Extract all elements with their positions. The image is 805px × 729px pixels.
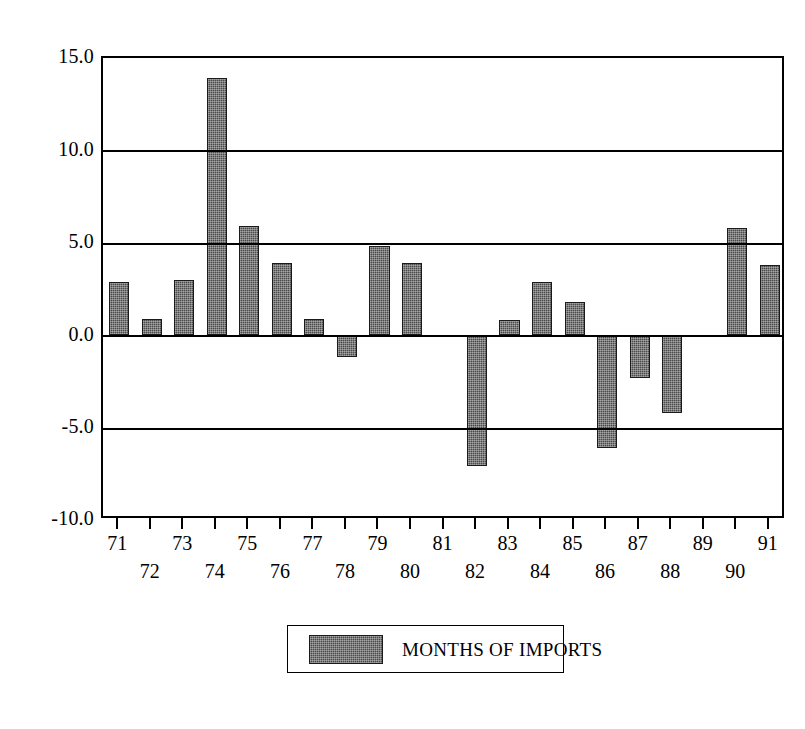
x-tick-73 (181, 518, 183, 529)
x-tick-74 (214, 518, 216, 529)
x-tick-label-77: 77 (290, 532, 334, 554)
x-tick-label-84: 84 (518, 560, 562, 582)
y-axis: 15.0 10.0 5.0 0.0 -5.0 -10.0 (0, 0, 94, 729)
x-tick-78 (344, 518, 346, 529)
x-tick-80 (409, 518, 411, 529)
y-tick-label: 15.0 (8, 46, 94, 66)
bar-73 (174, 280, 194, 335)
bar-72 (142, 319, 162, 336)
bar-88 (662, 335, 682, 413)
x-tick-label-86: 86 (583, 560, 627, 582)
y-tick-label: 10.0 (8, 139, 94, 159)
bar-82 (467, 335, 487, 466)
x-tick-label-85: 85 (551, 532, 595, 554)
bar-76 (272, 263, 292, 335)
bar-84 (532, 282, 552, 336)
x-tick-label-80: 80 (388, 560, 432, 582)
x-tick-79 (376, 518, 378, 529)
x-tick-89 (702, 518, 704, 529)
gridline-5 (103, 243, 782, 245)
chart-figure: 15.0 10.0 5.0 0.0 -5.0 -10.0 71727374757… (0, 0, 805, 729)
x-tick-81 (442, 518, 444, 529)
x-tick-88 (669, 518, 671, 529)
gridline-minus5 (103, 428, 782, 430)
legend-label-months-of-imports: MONTHS OF IMPORTS (402, 639, 602, 660)
x-tick-86 (604, 518, 606, 529)
x-axis-labels: 7172737475767778798081828384858687888990… (101, 530, 784, 592)
x-tick-label-72: 72 (128, 560, 172, 582)
bar-79 (369, 246, 389, 335)
legend-swatch-months-of-imports (309, 635, 383, 664)
y-tick-label: 0.0 (8, 324, 94, 344)
bar-77 (304, 319, 324, 336)
x-axis-ticks (101, 518, 784, 530)
bar-74 (207, 78, 227, 335)
gridline-10 (103, 150, 782, 152)
y-tick-label: -5.0 (8, 416, 94, 436)
bar-83 (499, 320, 519, 335)
bar-80 (402, 263, 422, 335)
x-tick-label-74: 74 (193, 560, 237, 582)
x-tick-label-71: 71 (95, 532, 139, 554)
x-tick-91 (767, 518, 769, 529)
gridline-0 (103, 335, 782, 337)
x-tick-label-82: 82 (453, 560, 497, 582)
x-tick-label-90: 90 (713, 560, 757, 582)
x-tick-84 (539, 518, 541, 529)
x-tick-label-81: 81 (421, 532, 465, 554)
x-tick-label-76: 76 (258, 560, 302, 582)
bar-78 (337, 335, 357, 357)
x-tick-82 (474, 518, 476, 529)
x-tick-75 (246, 518, 248, 529)
bar-91 (760, 265, 780, 335)
x-tick-label-89: 89 (681, 532, 725, 554)
y-tick-label: 5.0 (8, 231, 94, 251)
x-tick-label-73: 73 (160, 532, 204, 554)
bar-87 (630, 335, 650, 378)
x-tick-83 (507, 518, 509, 529)
x-tick-label-75: 75 (225, 532, 269, 554)
x-tick-label-88: 88 (648, 560, 692, 582)
bars-layer (103, 58, 782, 516)
plot-area (101, 56, 784, 518)
x-tick-87 (637, 518, 639, 529)
x-tick-label-78: 78 (323, 560, 367, 582)
chart-legend: MONTHS OF IMPORTS (287, 625, 564, 673)
x-tick-label-91: 91 (746, 532, 790, 554)
x-tick-label-83: 83 (486, 532, 530, 554)
x-tick-72 (149, 518, 151, 529)
x-tick-label-79: 79 (355, 532, 399, 554)
x-tick-71 (116, 518, 118, 529)
x-tick-85 (572, 518, 574, 529)
x-tick-76 (279, 518, 281, 529)
bar-86 (597, 335, 617, 448)
y-tick-label: -10.0 (8, 508, 94, 528)
bar-71 (109, 282, 129, 336)
x-tick-90 (734, 518, 736, 529)
bar-85 (565, 302, 585, 335)
x-tick-77 (311, 518, 313, 529)
x-tick-label-87: 87 (616, 532, 660, 554)
